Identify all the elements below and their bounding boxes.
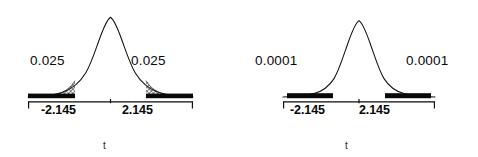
x-tick-label-left-positive: 2.145 bbox=[122, 104, 153, 117]
chart-panel-left: 0.025 0.025 -2.145 2.145 t bbox=[0, 0, 239, 157]
x-axis-title-right: t bbox=[345, 141, 348, 151]
x-tick-label-right-positive: 2.145 bbox=[359, 104, 390, 117]
rejection-bar-right-negative bbox=[287, 93, 333, 98]
rejection-bar-left-positive bbox=[146, 94, 193, 99]
x-tick-label-left-negative: -2.145 bbox=[41, 104, 76, 117]
tail-area-label-left-negative: 0.025 bbox=[30, 54, 65, 68]
x-tick-label-right-negative: -2.145 bbox=[290, 104, 325, 117]
t-distribution-figure: 0.025 0.025 -2.145 2.145 t bbox=[0, 0, 478, 157]
chart-plot-right bbox=[239, 0, 478, 157]
chart-panel-right: 0.0001 0.0001 -2.145 2.145 t bbox=[239, 0, 478, 157]
tail-area-label-right-negative: 0.0001 bbox=[255, 54, 298, 68]
chart-plot-left bbox=[0, 0, 239, 157]
tail-area-label-left-positive: 0.025 bbox=[131, 54, 166, 68]
rejection-bar-left-negative bbox=[28, 94, 75, 99]
tail-area-label-right-positive: 0.0001 bbox=[406, 54, 449, 68]
x-axis-title-left: t bbox=[103, 141, 106, 151]
tail-region-right-negative bbox=[287, 93, 333, 98]
tail-region-right-positive bbox=[385, 93, 431, 98]
rejection-bar-right-positive bbox=[385, 93, 431, 98]
